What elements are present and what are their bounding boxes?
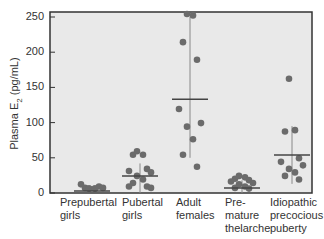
- data-point: [126, 183, 133, 190]
- data-point: [292, 127, 299, 134]
- data-point: [190, 136, 197, 143]
- y-tick-label: 150: [14, 80, 44, 92]
- data-point: [190, 12, 197, 19]
- data-point: [184, 123, 191, 130]
- x-category-label: Idiopathicprecociouspuberty: [270, 196, 323, 235]
- x-category-label: Pre-maturethelarche: [225, 196, 270, 235]
- x-category-label: Adultfemales: [176, 196, 215, 222]
- data-point: [126, 168, 133, 175]
- x-category-label: Prepubertalgirls: [60, 196, 117, 222]
- data-point: [296, 176, 303, 183]
- data-point: [250, 180, 257, 187]
- data-point: [296, 155, 303, 162]
- data-point: [282, 128, 289, 135]
- data-point: [286, 75, 293, 82]
- data-point: [78, 181, 85, 188]
- y-tick-label: 200: [14, 45, 44, 57]
- data-point: [140, 176, 147, 183]
- y-axis-label: Plasma E2 (pg/mL): [8, 44, 23, 164]
- data-point: [300, 162, 307, 169]
- data-point: [198, 120, 205, 127]
- y-tick-label: 250: [14, 10, 44, 22]
- data-point: [130, 152, 137, 159]
- data-point: [184, 11, 191, 18]
- data-point: [148, 185, 155, 192]
- data-point: [194, 163, 201, 170]
- plot-frame: [50, 12, 312, 193]
- data-point: [176, 106, 183, 113]
- y-tick-label: 50: [14, 151, 44, 163]
- data-point: [140, 152, 147, 159]
- data-point: [278, 159, 285, 166]
- y-tick-label: 0: [14, 186, 44, 198]
- data-point: [180, 39, 187, 46]
- data-point: [228, 178, 235, 185]
- data-point: [180, 152, 187, 159]
- y-tick-label: 100: [14, 116, 44, 128]
- data-point: [148, 169, 155, 176]
- chart: Plasma E2 (pg/mL) 050100150200250 Prepub…: [0, 0, 324, 239]
- data-point: [286, 166, 293, 173]
- data-point: [194, 56, 201, 63]
- x-category-label: Pubertalgirls: [122, 196, 163, 222]
- data-point: [292, 169, 299, 176]
- data-point: [282, 173, 289, 180]
